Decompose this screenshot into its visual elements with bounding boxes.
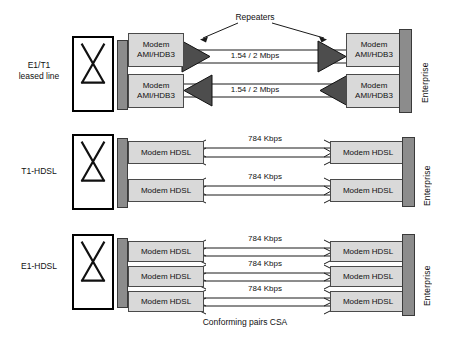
co-connector-bar-e1hdsl [117,238,128,308]
modem-line1: Modem [361,40,388,50]
modem-line2: AMI/HDB3 [137,91,175,101]
modem-line1: Modem HDSL [141,297,191,307]
modem-line2: AMI/HDB3 [355,50,393,60]
modem-line1: Modem HDSL [141,148,191,158]
central-office-icon-e1hdsl [72,234,114,310]
section-label-e1t1: E1/T1 leased line [6,60,72,82]
modem-right-e1t1-1: Modem AMI/HDB3 [346,33,402,67]
crossover-x-glyph [74,38,112,110]
co-connector-bar-t1hdsl [117,138,128,208]
enterprise-bar-t1hdsl [402,137,415,207]
modem-left-e1hdsl-3: Modem HDSL [128,291,204,312]
repeater-triangle [182,41,210,72]
enterprise-bar-e1hdsl [402,234,415,316]
modem-left-e1hdsl-1: Modem HDSL [128,241,204,262]
enterprise-label-e1hdsl: Enterprise [422,246,432,306]
rate-label-t1hdsl-1: 784 Kbps [232,134,298,143]
diagram-caption: Conforming pairs CSA [160,317,330,327]
repeater-triangle [184,75,212,106]
rate-label-e1hdsl-1: 784 Kbps [232,234,298,243]
modem-line1: Modem HDSL [141,186,191,196]
modem-right-e1hdsl-2: Modem HDSL [330,266,406,287]
modem-left-e1t1-1: Modem AMI/HDB3 [128,33,184,67]
modem-line1: Modem HDSL [343,297,393,307]
modem-line2: AMI/HDB3 [137,50,175,60]
enterprise-label-e1t1: Enterprise [420,43,430,103]
repeater-triangle [320,75,348,106]
section-label-t1hdsl: T1-HDSL [6,166,72,177]
modem-left-t1hdsl-2: Modem HDSL [128,179,204,202]
rate-label-e1hdsl-2: 784 Kbps [232,259,298,268]
modem-line1: Modem HDSL [343,186,393,196]
modem-line1: Modem HDSL [141,272,191,282]
central-office-icon-t1hdsl [72,134,114,210]
modem-line1: Modem HDSL [343,148,393,158]
modem-right-e1t1-2: Modem AMI/HDB3 [346,74,402,108]
rate-label-t1hdsl-2: 784 Kbps [232,172,298,181]
modem-left-t1hdsl-1: Modem HDSL [128,141,204,164]
rate-label-e1t1-1: 1.54 / 2 Mbps [222,51,288,60]
enterprise-bar-e1t1 [399,29,412,113]
modem-line2: AMI/HDB3 [355,91,393,101]
rate-label-e1t1-2: 1.54 / 2 Mbps [222,85,288,94]
modem-right-t1hdsl-1: Modem HDSL [330,141,406,164]
crossover-x-glyph [74,136,112,208]
section-label-e1hdsl: E1-HDSL [6,261,72,272]
modem-left-e1t1-2: Modem AMI/HDB3 [128,74,184,108]
enterprise-label-t1hdsl: Enterprise [422,146,432,206]
network-topology-diagram: E1/T1 leased line Modem AMI/HDB3 Modem A… [0,0,469,339]
modem-line1: Modem [143,81,170,91]
central-office-icon-e1t1 [72,36,114,112]
repeaters-label: Repeaters [210,12,300,22]
rate-label-e1hdsl-3: 784 Kbps [232,284,298,293]
modem-line1: Modem [143,40,170,50]
modem-right-e1hdsl-1: Modem HDSL [330,241,406,262]
modem-right-t1hdsl-2: Modem HDSL [330,179,406,202]
modem-left-e1hdsl-2: Modem HDSL [128,266,204,287]
modem-right-e1hdsl-3: Modem HDSL [330,291,406,312]
modem-line1: Modem [361,81,388,91]
repeater-triangle [318,41,346,72]
modem-line1: Modem HDSL [343,247,393,257]
modem-line1: Modem HDSL [141,247,191,257]
modem-line1: Modem HDSL [343,272,393,282]
co-connector-bar-e1t1 [117,40,128,110]
crossover-x-glyph [74,236,112,308]
